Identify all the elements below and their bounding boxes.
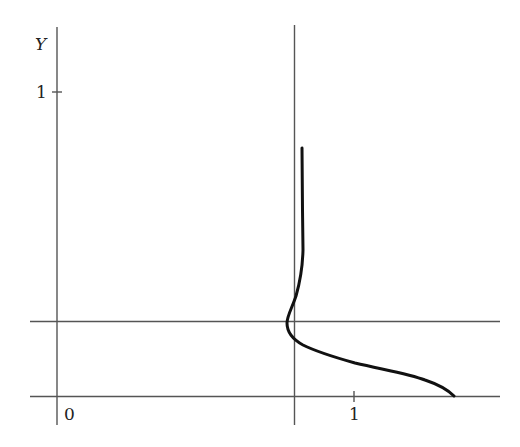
profile-curve	[287, 148, 454, 396]
x-tick-label-1: 1	[349, 404, 360, 424]
x-tick-label-0: 0	[64, 404, 75, 424]
y-axis-label: Y	[35, 34, 48, 54]
diagram-canvas: Y 1 0 1	[0, 0, 520, 447]
y-tick-label-1: 1	[36, 82, 47, 102]
